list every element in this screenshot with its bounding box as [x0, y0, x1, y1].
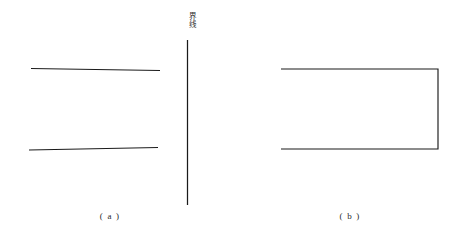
- figure-b-bracket: [281, 69, 438, 149]
- figure-a-group: [29, 69, 160, 151]
- reference-axis-label: 界线: [181, 12, 195, 28]
- figure-a-top-line: [31, 69, 160, 71]
- line-diagram-svg: [0, 0, 459, 231]
- caption-figure-a: ( a ): [0, 211, 220, 221]
- caption-figure-b: ( b ): [240, 211, 459, 221]
- figure-canvas: 界线 ( a ) ( b ): [0, 0, 459, 231]
- figure-b-group: [281, 69, 438, 149]
- figure-a-bottom-line: [29, 148, 158, 151]
